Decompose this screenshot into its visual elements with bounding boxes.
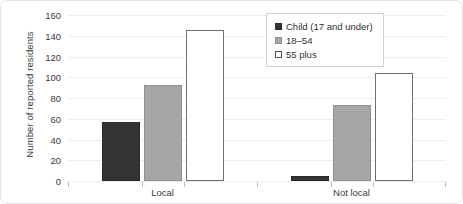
plot-area: 020406080100120140160	[68, 15, 446, 182]
x-axis-tick	[445, 182, 446, 187]
legend-item-label: Child (17 and under)	[286, 21, 373, 32]
bar	[102, 122, 140, 181]
legend-swatch-icon	[275, 23, 282, 30]
gridline	[68, 36, 446, 37]
x-axis-tick	[184, 182, 185, 187]
bar	[291, 176, 329, 181]
y-axis-tick-label: 20	[50, 155, 61, 166]
bar	[333, 105, 371, 181]
bar	[375, 73, 413, 181]
legend-item-label: 55 plus	[286, 49, 317, 60]
y-axis-tick-label: 0	[56, 176, 61, 187]
y-axis-tick-label: 120	[45, 51, 61, 62]
x-axis-category-label: Not local	[333, 187, 370, 198]
y-axis-tick-label: 160	[45, 10, 61, 21]
legend-swatch-icon	[275, 37, 282, 44]
legend-item-label: 18–54	[286, 35, 312, 46]
gridline	[68, 57, 446, 58]
x-axis-tick	[373, 182, 374, 187]
y-axis-tick-label: 100	[45, 72, 61, 83]
x-axis-tick	[68, 182, 69, 187]
legend-swatch-icon	[275, 51, 282, 58]
y-axis-title: Number of reported residents	[24, 15, 35, 175]
legend-item: Child (17 and under)	[275, 19, 373, 33]
gridline	[68, 15, 446, 16]
x-axis-tick	[142, 182, 143, 187]
y-axis-tick-label: 60	[50, 113, 61, 124]
legend-item: 55 plus	[275, 47, 373, 61]
bar-chart: Number of reported residents 02040608010…	[0, 0, 463, 204]
y-axis-tick-label: 40	[50, 134, 61, 145]
legend-item: 18–54	[275, 33, 373, 47]
bar	[186, 30, 224, 181]
y-axis-tick-label: 80	[50, 93, 61, 104]
bar	[144, 85, 182, 181]
x-axis-category-label: Local	[151, 187, 174, 198]
x-axis-tick	[257, 182, 258, 187]
x-axis-tick	[331, 182, 332, 187]
y-axis-tick-label: 140	[45, 30, 61, 41]
chart-legend: Child (17 and under)18–5455 plus	[266, 13, 384, 67]
